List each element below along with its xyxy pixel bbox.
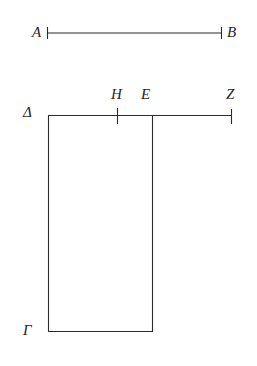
point-label-e: E bbox=[141, 87, 150, 102]
geometry-figure-canvas: A B Δ H E Z Γ bbox=[0, 0, 257, 366]
geometry-drawing bbox=[0, 0, 257, 366]
point-label-h: H bbox=[111, 87, 122, 102]
point-label-z: Z bbox=[226, 87, 234, 102]
point-label-delta: Δ bbox=[23, 105, 32, 120]
point-label-gamma: Γ bbox=[23, 323, 32, 338]
point-label-b: B bbox=[227, 25, 236, 40]
upper-figure-segment-ab bbox=[47, 27, 222, 39]
point-label-a: A bbox=[32, 25, 41, 40]
lower-figure-rectangle bbox=[48, 108, 232, 332]
